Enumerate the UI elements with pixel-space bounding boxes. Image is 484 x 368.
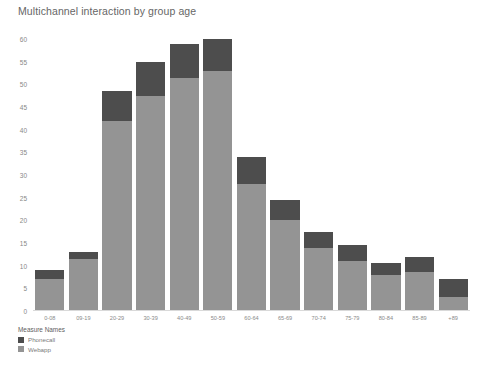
bar-column[interactable]: 85-89: [405, 39, 434, 311]
bar-stack[interactable]: [136, 62, 165, 311]
x-axis-tick-label: 65-69: [278, 315, 292, 321]
bar-stack[interactable]: [69, 252, 98, 311]
bar-stack[interactable]: [338, 245, 367, 311]
bar-column[interactable]: 30-39: [136, 39, 165, 311]
bar-segment-webapp[interactable]: [203, 71, 232, 311]
bar-stack[interactable]: [35, 270, 64, 311]
legend-item-label: Webapp: [28, 346, 51, 353]
x-axis-tick-label: 70-74: [312, 315, 326, 321]
bar-segment-phonecall[interactable]: [170, 44, 199, 78]
y-axis-tick-label: 15: [20, 240, 27, 247]
bar-stack[interactable]: [203, 39, 232, 311]
bar-segment-phonecall[interactable]: [102, 91, 131, 120]
y-axis-tick-label: 35: [20, 149, 27, 156]
bar-column[interactable]: 40-49: [170, 39, 199, 311]
bar-segment-webapp[interactable]: [136, 96, 165, 311]
bar-column[interactable]: 65-69: [270, 39, 299, 311]
bar-segment-webapp[interactable]: [237, 184, 266, 311]
bar-segment-phonecall[interactable]: [69, 252, 98, 259]
bar-stack[interactable]: [270, 200, 299, 311]
x-axis-line: [33, 310, 470, 311]
bar-stack[interactable]: [304, 232, 333, 311]
page-title: Multichannel interaction by group age: [18, 5, 196, 17]
legend-item[interactable]: Webapp: [18, 346, 65, 353]
bar-segment-webapp[interactable]: [69, 259, 98, 311]
y-gridline: 0: [33, 311, 470, 312]
bar-group: 0-0809-1920-2930-3940-4950-5960-6465-697…: [33, 39, 470, 311]
bar-stack[interactable]: [405, 257, 434, 311]
legend-swatch-icon: [18, 337, 24, 343]
x-axis-tick-label: 80-84: [379, 315, 393, 321]
bar-segment-phonecall[interactable]: [136, 62, 165, 96]
bar-segment-phonecall[interactable]: [304, 232, 333, 248]
bar-column[interactable]: 0-08: [35, 39, 64, 311]
y-axis-tick-label: 30: [20, 172, 27, 179]
x-axis-tick-label: 40-49: [177, 315, 191, 321]
y-axis-tick-label: 10: [20, 262, 27, 269]
bar-segment-webapp[interactable]: [439, 297, 468, 311]
bar-segment-phonecall[interactable]: [237, 157, 266, 184]
y-axis-tick-label: 55: [20, 58, 27, 65]
bar-stack[interactable]: [237, 157, 266, 311]
y-axis-tick-label: 45: [20, 104, 27, 111]
bar-segment-webapp[interactable]: [405, 272, 434, 311]
bar-segment-webapp[interactable]: [35, 279, 64, 311]
bar-column[interactable]: 09-19: [69, 39, 98, 311]
y-axis-tick-label: 60: [20, 36, 27, 43]
bar-segment-webapp[interactable]: [102, 121, 131, 311]
legend-item[interactable]: Phonecall: [18, 336, 65, 343]
x-axis-tick-label: 0-08: [44, 315, 55, 321]
bar-segment-phonecall[interactable]: [35, 270, 64, 279]
x-axis-tick-label: 09-19: [76, 315, 90, 321]
bar-segment-phonecall[interactable]: [203, 39, 232, 71]
x-axis-tick-label: 20-29: [110, 315, 124, 321]
x-axis-tick-label: 50-59: [211, 315, 225, 321]
legend-item-label: Phonecall: [28, 336, 55, 343]
bar-column[interactable]: 70-74: [304, 39, 333, 311]
x-axis-tick-label: 60-64: [244, 315, 258, 321]
y-axis-tick-label: 25: [20, 194, 27, 201]
bar-segment-webapp[interactable]: [270, 220, 299, 311]
bar-stack[interactable]: [102, 91, 131, 311]
bar-stack[interactable]: [371, 263, 400, 311]
x-axis-tick-label: 30-39: [143, 315, 157, 321]
legend-items: PhonecallWebapp: [18, 336, 65, 353]
y-axis-tick-label: 20: [20, 217, 27, 224]
chart-container: Multichannel interaction by group age 05…: [0, 0, 484, 368]
legend-title: Measure Names: [18, 326, 65, 333]
bar-column[interactable]: 20-29: [102, 39, 131, 311]
plot-area: 051015202530354045505560 0-0809-1920-293…: [33, 39, 470, 311]
legend-swatch-icon: [18, 346, 24, 352]
bar-segment-webapp[interactable]: [338, 261, 367, 311]
y-axis-tick-label: 40: [20, 126, 27, 133]
x-axis-tick-label: 85-89: [412, 315, 426, 321]
x-axis-tick-label: +89: [448, 315, 458, 321]
bar-column[interactable]: 75-79: [338, 39, 367, 311]
bar-column[interactable]: 50-59: [203, 39, 232, 311]
y-axis-tick-label: 50: [20, 81, 27, 88]
x-axis-tick-label: 75-79: [345, 315, 359, 321]
bar-column[interactable]: +89: [439, 39, 468, 311]
legend: Measure Names PhonecallWebapp: [18, 326, 65, 355]
bar-segment-phonecall[interactable]: [405, 257, 434, 273]
bar-segment-webapp[interactable]: [304, 248, 333, 311]
bar-stack[interactable]: [170, 44, 199, 311]
bar-segment-webapp[interactable]: [170, 78, 199, 311]
y-axis-tick-label: 5: [23, 285, 27, 292]
bar-column[interactable]: 80-84: [371, 39, 400, 311]
bar-stack[interactable]: [439, 279, 468, 311]
bar-segment-phonecall[interactable]: [270, 200, 299, 220]
y-axis-tick-label: 0: [23, 308, 27, 315]
bar-segment-phonecall[interactable]: [439, 279, 468, 297]
bar-segment-webapp[interactable]: [371, 275, 400, 311]
bar-column[interactable]: 60-64: [237, 39, 266, 311]
bar-segment-phonecall[interactable]: [338, 245, 367, 261]
bar-segment-phonecall[interactable]: [371, 263, 400, 274]
